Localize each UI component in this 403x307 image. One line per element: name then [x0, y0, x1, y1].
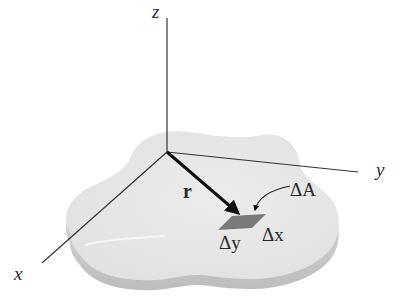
- dx-label: Δx: [262, 225, 284, 244]
- vector-r-label: r: [183, 181, 192, 201]
- dy-label: Δy: [219, 233, 241, 252]
- diagram-canvas: [0, 0, 403, 307]
- area-element-label: ΔA: [290, 180, 316, 199]
- z-axis-label: z: [152, 2, 159, 21]
- y-axis-label: y: [376, 160, 384, 179]
- x-axis-label: x: [14, 264, 22, 283]
